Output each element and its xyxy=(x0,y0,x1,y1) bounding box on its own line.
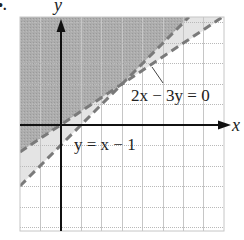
graph-figure: •. xyxy=(0,0,244,240)
label-2x-minus-3y-eq-0: 2x − 3y = 0 xyxy=(131,86,210,105)
label-y-eq-x-minus-1: y = x − 1 xyxy=(74,135,136,154)
x-axis-label: x xyxy=(231,115,240,135)
problem-marker: •. xyxy=(0,0,6,13)
y-axis-label: y xyxy=(52,0,62,15)
